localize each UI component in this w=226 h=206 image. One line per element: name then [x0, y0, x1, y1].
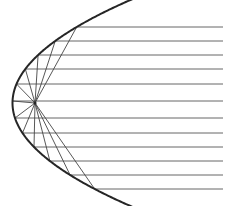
focus-point: [33, 101, 36, 104]
parabolic-reflector-figure: [0, 0, 226, 206]
diagram-canvas: [0, 0, 226, 206]
